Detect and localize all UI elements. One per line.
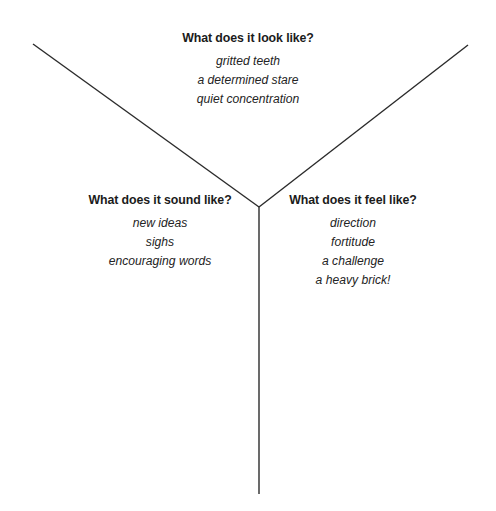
zone-sound-heading: What does it sound like? bbox=[65, 192, 255, 208]
list-item: sighs bbox=[63, 233, 257, 252]
zone-look: What does it look like? gritted teeth a … bbox=[148, 30, 348, 109]
zone-look-item-list: gritted teeth a determined stare quiet c… bbox=[148, 52, 348, 109]
list-item: encouraging words bbox=[63, 252, 257, 271]
zone-look-heading: What does it look like? bbox=[153, 30, 343, 46]
list-item: new ideas bbox=[63, 214, 257, 233]
zone-sound-item-list: new ideas sighs encouraging words bbox=[60, 214, 260, 271]
zone-feel: What does it feel like? direction fortit… bbox=[253, 192, 453, 290]
y-chart-canvas: What does it look like? gritted teeth a … bbox=[0, 0, 496, 511]
zone-feel-item-list: direction fortitude a challenge a heavy … bbox=[253, 214, 453, 290]
list-item: a heavy brick! bbox=[256, 271, 450, 290]
list-item: direction bbox=[256, 214, 450, 233]
zone-feel-heading: What does it feel like? bbox=[258, 192, 448, 208]
zone-sound: What does it sound like? new ideas sighs… bbox=[60, 192, 260, 271]
list-item: quiet concentration bbox=[151, 90, 345, 109]
list-item: fortitude bbox=[256, 233, 450, 252]
list-item: gritted teeth bbox=[151, 52, 345, 71]
list-item: a determined stare bbox=[151, 71, 345, 90]
list-item: a challenge bbox=[256, 252, 450, 271]
